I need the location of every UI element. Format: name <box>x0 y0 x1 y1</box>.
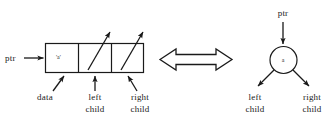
data-caption-arrow <box>53 76 64 91</box>
data-caption: data <box>37 92 53 102</box>
ptr-label-tree: ptr <box>278 8 289 18</box>
tree-right-child-caption-line2: child <box>303 104 322 115</box>
double-headed-arrow-icon <box>160 49 232 70</box>
right-child-caption-arrow <box>128 76 137 91</box>
tree-right-child-caption-line1: right <box>303 92 321 103</box>
tree-node-value: a <box>282 57 285 63</box>
ptr-label-box: ptr <box>5 53 16 63</box>
right-child-caption-line2: child <box>131 104 150 115</box>
right-child-caption-line1: right <box>131 92 149 103</box>
left-child-caption-line2: child <box>86 104 105 115</box>
tree-left-child-caption-line1: left <box>249 92 262 103</box>
tree-left-child-caption-line2: child <box>246 104 265 115</box>
figure-canvas: ptr 'a' data left child right child ptr … <box>0 0 334 124</box>
tree-left-edge <box>258 70 274 86</box>
tree-right-edge <box>293 70 309 86</box>
left-child-caption-line1: left <box>89 92 102 103</box>
data-cell-value: 'a' <box>56 54 61 60</box>
